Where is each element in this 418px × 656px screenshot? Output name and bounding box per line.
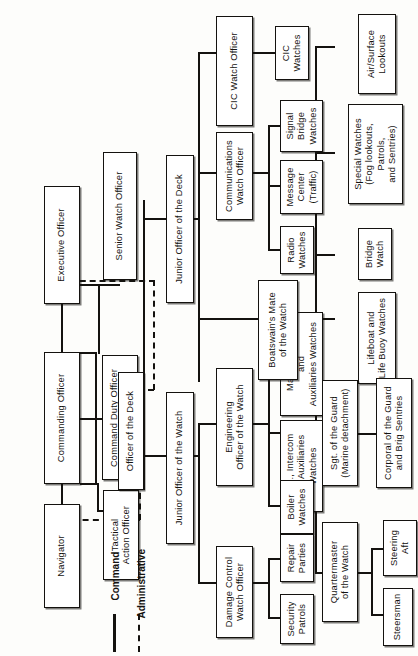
node-label: Security Patrols — [286, 601, 309, 636]
node-boiler-watches[interactable]: Boiler Watches — [280, 480, 314, 534]
node-communications-watch-officer[interactable]: Communications Watch Officer — [216, 132, 253, 220]
connector-sgt-to-corporal — [358, 433, 376, 435]
node-label: Commanding Officer — [56, 374, 67, 462]
node-bridge-watch[interactable]: Bridge Watch — [358, 228, 392, 280]
node-label: Damage Control Watch Officer — [223, 557, 246, 627]
connector-ood-to-jow — [143, 455, 167, 457]
connector-bmow-to-spw — [315, 152, 335, 154]
connector-swo-stub — [98, 284, 120, 286]
connector-xo-to-swo-v — [98, 284, 100, 354]
org-chart-canvas: Commanding Officer Executive Officer Nav… — [0, 0, 418, 656]
node-label: Quartermaster of the Watch — [329, 541, 352, 603]
node-junior-officer-of-the-watch[interactable]: Junior Officer of the Watch — [166, 392, 194, 544]
connector-jood-to-cwo — [198, 172, 216, 174]
node-label: Signal Bridge Watches — [284, 107, 318, 144]
node-steering-aft[interactable]: Steering Aft — [383, 520, 417, 576]
connector-jow-to-eow — [198, 423, 216, 425]
node-label: Bridge Watch — [364, 240, 387, 268]
node-label: Officer of the Deck — [125, 391, 136, 471]
node-label: Special Watches (Fog lookouts, Patrols, … — [353, 118, 399, 190]
legend-label-administrative: Administrative — [136, 549, 147, 619]
node-damage-control-watch-officer[interactable]: Damage Control Watch Officer — [216, 546, 253, 638]
node-label: Sgt. of the Guard (Marine detachment) — [329, 388, 352, 477]
node-cic-watch-officer[interactable]: CIC Watch Officer — [216, 16, 253, 126]
connector-jow-to-dcwo — [198, 582, 216, 584]
connector-jood-to-cicwo — [198, 52, 216, 54]
connector-bmow-to-asl — [315, 46, 335, 48]
node-cic-watches[interactable]: CIC Watches — [275, 26, 309, 80]
node-officer-of-the-deck[interactable]: Officer of the Deck — [118, 372, 144, 490]
connector-jood-trunk — [198, 52, 200, 382]
connector-qmow-to-steersman — [371, 614, 383, 616]
node-corporal-of-the-guard[interactable]: Corporal of the Guard and Brig Sentries — [376, 378, 412, 488]
connector-qmow-trunk — [371, 548, 373, 615]
connector-eow-trunk — [268, 366, 270, 506]
node-label: Navigator — [56, 535, 67, 576]
node-senior-watch-officer[interactable]: Senior Watch Officer — [103, 152, 137, 280]
connector-eow-stub — [253, 423, 269, 425]
legend-label-command: Command — [110, 551, 121, 601]
connector-co-stub-lower — [80, 483, 97, 485]
node-message-center[interactable]: Message Center (Traffic) — [280, 160, 323, 214]
node-engineering-officer-of-the-watch[interactable]: Engineering Officer of the Watch — [216, 368, 253, 486]
node-air-surface-lookouts[interactable]: Air/Surface Lookouts — [358, 14, 396, 94]
connector-cicwo-to-cicwatches — [253, 52, 275, 54]
node-navigator[interactable]: Navigator — [44, 504, 80, 608]
connector-jow-trunk — [198, 423, 200, 583]
node-label: Air/Surface Lookouts — [366, 30, 389, 78]
connector-co-stub-upper — [80, 352, 97, 354]
node-repair-parties[interactable]: Repair Parties — [280, 534, 314, 582]
node-label: Senior Watch Officer — [114, 172, 125, 261]
node-label: Junior Officer of the Watch — [174, 411, 185, 526]
node-signal-bridge-watches[interactable]: Signal Bridge Watches — [280, 100, 323, 152]
node-label: CIC Watches — [281, 34, 304, 71]
node-label: Steering Aft — [389, 530, 412, 566]
node-commanding-officer[interactable]: Commanding Officer — [44, 352, 80, 484]
connector-dcwo-stub — [253, 582, 269, 584]
node-special-watches[interactable]: Special Watches (Fog lookouts, Patrols, … — [348, 104, 403, 204]
connector-ood-to-jood — [143, 218, 167, 220]
node-security-patrols[interactable]: Security Patrols — [280, 594, 314, 644]
connector-bmow-to-bridgewatch — [315, 254, 335, 256]
node-label: Executive Officer — [56, 208, 67, 281]
node-executive-officer[interactable]: Executive Officer — [44, 186, 80, 304]
node-label: CIC Watch Officer — [229, 32, 240, 110]
connector-swo-ood-dashed-drop — [153, 280, 155, 390]
legend-swatch-administrative-line — [138, 614, 140, 652]
connector-eow-to-eiaw — [268, 432, 280, 434]
connector-dcwo-trunk — [268, 558, 270, 618]
node-label: Boiler Watches — [286, 488, 309, 525]
connector-qmow-to-steering — [371, 548, 383, 550]
legend-swatch-command-line — [113, 614, 116, 652]
legend: Command Administrative — [100, 552, 160, 656]
node-boatswains-mate-of-the-watch[interactable]: Boatswain's Mate of the Watch — [258, 280, 298, 380]
node-label: Lifeboat and Life Buoy Watches — [366, 298, 389, 378]
connector-co-to-tao-v — [97, 483, 99, 511]
connector-dcwo-to-repair — [268, 558, 280, 560]
connector-qmow-stub — [358, 572, 372, 574]
node-radio-watches[interactable]: Radio Watches — [280, 226, 314, 274]
node-junior-officer-of-the-deck[interactable]: Junior Officer of the Deck — [166, 155, 194, 303]
connector-jood-to-bmow — [198, 318, 258, 320]
connector-cwo-stub — [253, 172, 269, 174]
node-label: Communications Watch Officer — [223, 140, 246, 212]
connector-dcwo-to-security — [268, 617, 280, 619]
node-quartermaster-of-the-watch[interactable]: Quartermaster of the Watch — [322, 522, 358, 622]
node-label: Steersman — [392, 594, 403, 641]
node-label: Boatswain's Mate of the Watch — [267, 292, 290, 368]
connector-eow-to-boiler — [268, 505, 280, 507]
connector-co-to-xo — [61, 304, 63, 354]
connector-co-stub-cdo — [80, 418, 102, 420]
connector-cwo-to-radw — [268, 249, 280, 251]
node-sergeant-of-the-guard[interactable]: Sgt. of the Guard (Marine detachment) — [322, 380, 358, 486]
connector-xo-to-swo-h — [80, 284, 99, 286]
connector-cwo-to-mct — [268, 185, 280, 187]
node-steersman[interactable]: Steersman — [383, 588, 413, 646]
connector-co-to-navigator — [61, 482, 63, 504]
node-label: Corporal of the Guard and Brig Sentries — [383, 386, 406, 480]
node-label: Junior Officer of the Deck — [174, 174, 185, 284]
node-lifeboat-life-buoy-watches[interactable]: Lifeboat and Life Buoy Watches — [358, 292, 396, 384]
node-label: Repair Parties — [286, 543, 309, 573]
connector-cwo-trunk — [268, 125, 270, 250]
node-label: Engineering Officer of the Watch — [223, 384, 246, 469]
